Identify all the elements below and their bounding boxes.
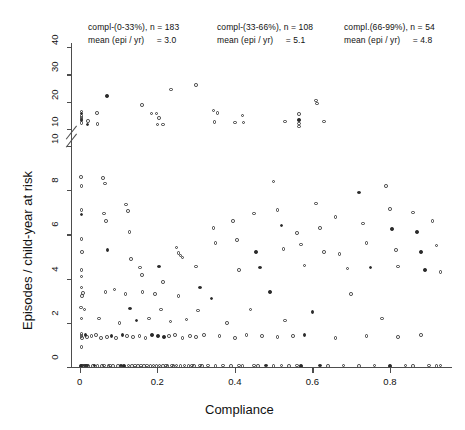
- data-point: [140, 103, 144, 107]
- data-point: [210, 297, 214, 301]
- data-point: [315, 102, 319, 106]
- data-point: [252, 212, 256, 216]
- data-point: [287, 364, 291, 367]
- data-point: [357, 364, 361, 367]
- data-point: [431, 219, 435, 223]
- data-point: [144, 336, 148, 340]
- data-point: [283, 120, 287, 124]
- data-point: [202, 333, 206, 337]
- data-point: [80, 121, 84, 125]
- data-point: [118, 321, 122, 325]
- y-axis-tick-label: 2: [49, 310, 60, 332]
- data-point: [80, 286, 84, 290]
- data-point: [80, 345, 84, 349]
- data-point: [235, 238, 239, 242]
- x-axis-tick-label: 0: [66, 376, 94, 387]
- data-point: [249, 308, 253, 312]
- data-point: [314, 202, 318, 206]
- data-point: [111, 364, 115, 367]
- data-point: [283, 319, 287, 323]
- data-point: [105, 94, 109, 98]
- data-point: [439, 364, 443, 367]
- y-axis-tick: [67, 129, 72, 130]
- data-point: [80, 250, 84, 254]
- data-point: [369, 266, 373, 270]
- data-point: [419, 250, 423, 254]
- data-point: [264, 364, 268, 367]
- data-point: [260, 334, 264, 338]
- data-point: [131, 335, 135, 339]
- data-point: [80, 208, 84, 212]
- data-point: [95, 111, 99, 115]
- data-point: [303, 333, 307, 337]
- y-axis-tick: [67, 234, 72, 235]
- data-point: [404, 364, 408, 367]
- data-point: [334, 336, 338, 340]
- x-axis-tick-label: 0.6: [298, 376, 326, 387]
- data-point: [86, 364, 90, 367]
- data-point: [299, 243, 303, 247]
- x-axis-tick: [235, 368, 236, 373]
- data-point: [104, 219, 108, 223]
- data-point: [411, 211, 415, 215]
- data-point: [96, 122, 100, 126]
- data-point: [181, 256, 185, 260]
- data-point: [384, 184, 388, 188]
- data-point: [194, 335, 198, 339]
- data-point: [79, 175, 83, 179]
- data-point: [411, 364, 415, 367]
- data-point: [155, 112, 159, 116]
- data-point: [439, 270, 443, 274]
- data-point: [297, 125, 301, 129]
- y-axis-tick: [67, 102, 72, 103]
- data-point: [138, 266, 142, 270]
- data-point: [80, 275, 84, 279]
- data-point: [86, 123, 90, 127]
- data-point: [166, 364, 170, 367]
- data-point: [365, 241, 369, 245]
- data-point: [157, 116, 161, 120]
- data-point: [256, 364, 260, 367]
- data-point: [83, 308, 87, 312]
- data-point: [106, 248, 110, 252]
- data-point: [206, 364, 210, 367]
- y-axis-tick: [67, 367, 72, 368]
- data-point: [349, 292, 353, 296]
- data-point: [435, 244, 439, 248]
- data-point: [423, 268, 427, 272]
- data-point: [196, 309, 200, 313]
- data-point: [241, 114, 245, 118]
- lower-panel-main: [72, 146, 452, 367]
- data-point: [276, 335, 280, 339]
- data-point: [268, 290, 272, 294]
- data-point: [231, 219, 235, 223]
- data-point: [245, 333, 249, 337]
- data-point: [322, 120, 326, 124]
- data-point: [373, 364, 377, 367]
- data-point: [162, 335, 166, 339]
- data-point: [192, 364, 196, 367]
- data-point: [272, 180, 276, 184]
- data-point: [104, 290, 108, 294]
- data-point: [213, 120, 217, 124]
- data-point: [129, 257, 133, 261]
- scatter-plot-figure: compl-(0-33%), n = 183 mean (epi / yr) =…: [0, 0, 465, 430]
- data-point: [388, 207, 392, 211]
- data-point: [237, 364, 241, 367]
- data-point: [194, 83, 198, 87]
- data-point: [258, 266, 262, 270]
- data-point: [101, 176, 105, 180]
- data-point: [81, 291, 85, 295]
- data-point: [233, 336, 237, 340]
- data-point: [128, 307, 132, 311]
- data-point: [218, 334, 222, 338]
- data-point: [334, 215, 338, 219]
- data-point: [147, 317, 151, 321]
- x-axis-tick: [157, 368, 158, 373]
- data-point: [212, 226, 216, 230]
- data-point: [233, 121, 237, 125]
- data-point: [365, 334, 369, 338]
- data-point: [103, 182, 107, 186]
- data-point: [153, 292, 157, 296]
- data-point: [214, 364, 218, 367]
